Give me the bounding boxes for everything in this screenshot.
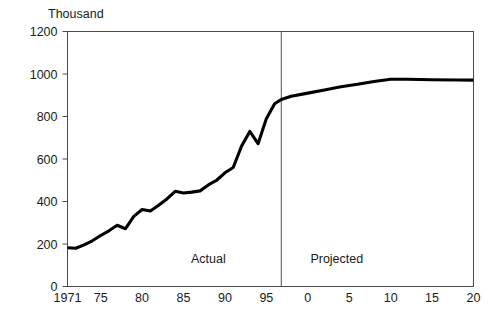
actual-label: Actual (191, 252, 226, 266)
chart-annotations: ActualProjected (191, 252, 363, 266)
x-axis-tick-label: 80 (135, 291, 149, 305)
x-axis-tick-labels: 1971758085909505101520 (54, 291, 481, 305)
data-series-line (68, 79, 474, 248)
line-chart: 020040060080010001200 197175808590950510… (0, 0, 493, 312)
y-axis-tick-label: 1200 (30, 25, 58, 39)
chart-container: 020040060080010001200 197175808590950510… (0, 0, 493, 312)
y-axis-unit-label: Thousand (48, 7, 104, 21)
x-axis-tick-label: 95 (259, 291, 273, 305)
y-axis-tick-label: 200 (37, 238, 58, 252)
x-axis-tick-label: 1971 (54, 291, 82, 305)
x-axis-tick-label: 15 (425, 291, 439, 305)
y-axis-tick-label: 800 (37, 110, 58, 124)
x-axis-tick-label: 85 (177, 291, 191, 305)
x-axis-tick-label: 5 (346, 291, 353, 305)
y-axis-tick-labels: 020040060080010001200 (30, 25, 58, 294)
y-axis-tick-label: 600 (37, 153, 58, 167)
projected-label: Projected (310, 252, 363, 266)
x-axis-tick-label: 0 (304, 291, 311, 305)
x-axis-tick-label: 90 (218, 291, 232, 305)
y-axis-ticks (63, 32, 68, 287)
x-axis-tick-label: 10 (384, 291, 398, 305)
x-axis-tick-label: 75 (94, 291, 108, 305)
plot-frame (68, 32, 474, 287)
y-axis-tick-label: 1000 (30, 68, 58, 82)
x-axis-tick-label: 20 (467, 291, 481, 305)
y-axis-tick-label: 400 (37, 195, 58, 209)
